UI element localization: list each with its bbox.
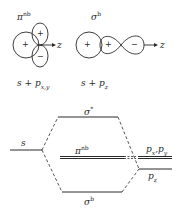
- px-py-label: px,py: [146, 145, 167, 156]
- s-lobe-sign: +: [22, 41, 29, 49]
- p-right-lobe-sign: +: [105, 41, 112, 49]
- correlation-lines: [42, 117, 139, 192]
- pi-nb-axis-label: z: [57, 41, 62, 50]
- s-lobe-sign: +: [84, 41, 91, 49]
- p-left-lobe-sign: −: [131, 41, 138, 49]
- p-lower-lobe-sign: −: [37, 53, 44, 61]
- s-level-label: s: [21, 139, 26, 148]
- pi-nb-combination: s + px,y: [17, 79, 49, 90]
- pi-nb-orbital-figure: [13, 23, 56, 67]
- pz-to-sigma-b: [122, 169, 139, 192]
- pz-to-sigma-star: [118, 117, 139, 169]
- pi-nb-label: πnb: [75, 145, 89, 156]
- s-to-sigma-b: [42, 150, 62, 192]
- arrowhead-icon: [154, 43, 158, 47]
- p-upper-lobe-sign: +: [37, 30, 44, 38]
- pz-label: pz: [148, 172, 157, 183]
- sigma-b-combination: s + pz: [81, 79, 108, 90]
- sigma-b-axis-label: z: [160, 41, 165, 50]
- sigma-b-title: σb: [91, 11, 101, 22]
- sigma-b-label: σb: [84, 196, 94, 207]
- arrowhead-icon: [52, 43, 56, 47]
- s-to-sigma-star: [42, 117, 58, 150]
- sigma-star-label: σ*: [84, 106, 93, 117]
- pi-nb-title: πnb: [17, 11, 31, 22]
